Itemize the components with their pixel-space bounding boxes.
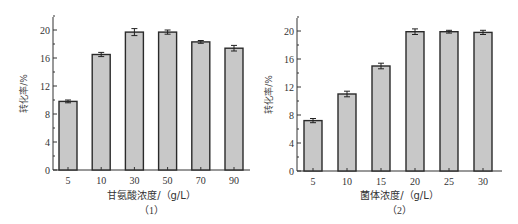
bar — [125, 32, 143, 170]
x-tick-label: 10 — [96, 175, 106, 186]
y-tick-label: 8 — [45, 109, 50, 120]
bar — [92, 55, 110, 171]
bar — [225, 48, 243, 170]
x-axis-label: 菌体浓度/（g/L） — [360, 189, 439, 201]
bar — [372, 66, 390, 171]
x-tick-label: 50 — [163, 175, 173, 186]
y-tick-label: 4 — [45, 137, 50, 148]
chart-panel-2: 04812162051015202530菌体浓度/（g/L）（2）转化率/% — [263, 17, 502, 216]
panel-label: （2） — [387, 205, 412, 216]
bar — [304, 121, 322, 171]
x-tick-label: 30 — [129, 175, 139, 186]
x-tick-label: 90 — [229, 175, 239, 186]
y-axis-label: 转化率/% — [18, 74, 29, 113]
figure: 04812162051030507090甘氨酸浓度/（g/L）（1）转化率/% … — [0, 0, 518, 224]
x-axis-label: 甘氨酸浓度/（g/L） — [107, 189, 196, 201]
bar — [440, 32, 458, 171]
y-tick-label: 0 — [45, 165, 50, 176]
y-tick-label: 0 — [289, 166, 294, 177]
x-tick-label: 25 — [444, 176, 454, 187]
y-tick-label: 12 — [284, 82, 294, 93]
x-tick-label: 10 — [342, 176, 352, 187]
y-tick-label: 12 — [40, 81, 50, 92]
x-tick-label: 5 — [311, 176, 316, 187]
x-tick-label: 20 — [410, 176, 420, 187]
bar — [192, 42, 210, 170]
bar — [159, 32, 177, 170]
bar — [338, 94, 356, 171]
y-tick-label: 16 — [284, 54, 294, 65]
x-tick-label: 5 — [66, 175, 71, 186]
y-tick-label: 4 — [289, 138, 294, 149]
bar — [474, 32, 492, 171]
x-tick-label: 70 — [196, 175, 206, 186]
bar — [406, 32, 424, 171]
y-axis-label: 转化率/% — [263, 75, 274, 114]
y-tick-label: 20 — [284, 26, 294, 37]
chart-panel-1: 04812162051030507090甘氨酸浓度/（g/L）（1）转化率/% — [18, 16, 250, 216]
x-tick-label: 30 — [478, 176, 488, 187]
y-tick-label: 8 — [289, 110, 294, 121]
y-tick-label: 16 — [40, 53, 50, 64]
panel-label: （1） — [139, 205, 164, 216]
bar — [59, 101, 77, 170]
y-tick-label: 20 — [40, 25, 50, 36]
x-tick-label: 15 — [376, 176, 386, 187]
